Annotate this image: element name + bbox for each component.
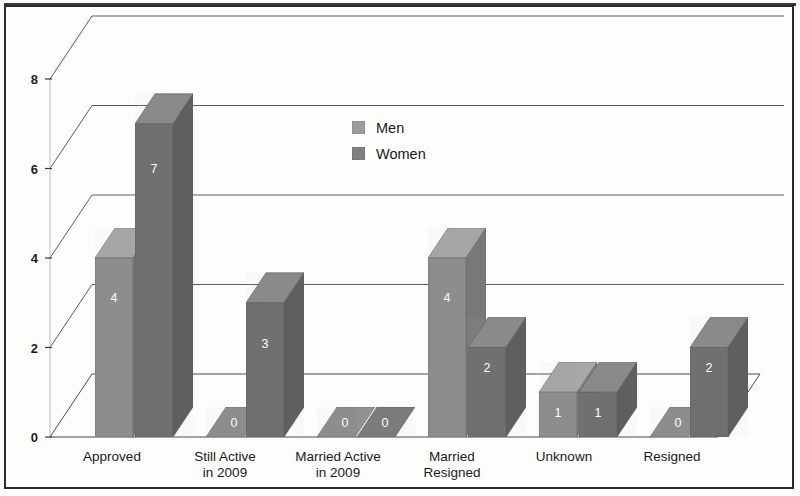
- bar-front-face: [428, 258, 466, 437]
- bar-label-women-still-active-2009: 3: [262, 337, 269, 351]
- bar-women-approved[interactable]: [135, 94, 193, 437]
- bar-group-still-active-2009: 0 3: [206, 273, 304, 437]
- bar-women-married-resigned[interactable]: [468, 318, 526, 438]
- cat-label-still-active-line2: in 2009: [203, 465, 247, 480]
- bar-label-men-unknown: 1: [555, 406, 562, 420]
- legend-swatch-men: [352, 121, 365, 134]
- legend-item-men[interactable]: Men: [352, 120, 404, 136]
- bar-label-women-married-active-2009: 0: [382, 416, 389, 430]
- y-tick-label-4: 4: [31, 251, 39, 266]
- y-axis-tick-labels: 8 6 4 2 0: [31, 72, 39, 445]
- y-tick-label-6: 6: [31, 162, 38, 177]
- legend-swatch-women: [352, 147, 365, 160]
- bar-front-face: [246, 303, 284, 437]
- x-axis-category-labels: Approved Still Active in 2009 Married Ac…: [83, 449, 700, 480]
- cat-label-married-resigned-line2: Resigned: [423, 465, 480, 480]
- bar-label-women-resigned: 2: [706, 361, 713, 375]
- bar-chart-3d: 8 6 4 2 0 4 7: [0, 0, 800, 496]
- bar-side-face: [173, 94, 193, 437]
- cat-label-married-resigned-line1: Married: [429, 449, 475, 464]
- legend: Men Women: [352, 120, 426, 162]
- legend-label-women: Women: [376, 146, 426, 162]
- bar-group-approved: 4 7: [95, 94, 193, 437]
- cat-label-married-active-line2: in 2009: [316, 465, 360, 480]
- bar-group-resigned: 0 2: [650, 318, 748, 438]
- y-tick-label-8: 8: [31, 72, 38, 87]
- y-tick-label-2: 2: [31, 341, 38, 356]
- y-axis-ticks: [45, 79, 52, 437]
- cat-label-approved-line1: Approved: [83, 449, 141, 464]
- bar-women-resigned[interactable]: [690, 318, 748, 438]
- bar-group-married-active-2009: 0 0: [317, 407, 415, 437]
- cat-label-unknown-line1: Unknown: [536, 449, 592, 464]
- bar-label-women-married-resigned: 2: [484, 361, 491, 375]
- cat-label-married-active-line1: Married Active: [295, 449, 381, 464]
- y-tick-label-0: 0: [31, 430, 38, 445]
- bar-label-men-married-resigned: 4: [444, 291, 451, 305]
- bar-women-still-active-2009[interactable]: [246, 273, 304, 437]
- cat-label-resigned-line1: Resigned: [643, 449, 700, 464]
- legend-item-women[interactable]: Women: [352, 146, 426, 162]
- bar-label-women-approved: 7: [151, 162, 158, 176]
- bar-front-face: [95, 258, 133, 437]
- bar-group-married-resigned: 4 2: [428, 228, 526, 437]
- legend-label-men: Men: [376, 120, 404, 136]
- cat-label-still-active-line1: Still Active: [194, 449, 256, 464]
- bar-label-men-approved: 4: [111, 291, 118, 305]
- bar-label-women-unknown: 1: [595, 406, 602, 420]
- bar-group-unknown: 1 1: [539, 362, 637, 437]
- bar-label-men-resigned: 0: [675, 416, 682, 430]
- bar-label-men-still-active-2009: 0: [231, 416, 238, 430]
- bar-label-men-married-active-2009: 0: [342, 416, 349, 430]
- chart-page: 8 6 4 2 0 4 7: [0, 0, 800, 496]
